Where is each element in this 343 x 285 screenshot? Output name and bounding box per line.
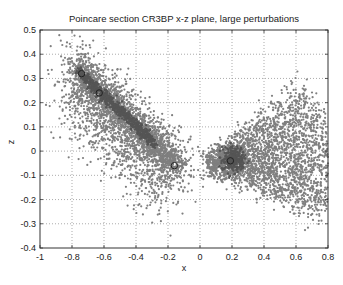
scatter-points (45, 34, 329, 237)
y-tick-label: -0.3 (20, 219, 36, 229)
y-tick-label: 0.1 (23, 122, 36, 132)
x-tick-label: 0.2 (226, 252, 239, 262)
y-axis-label: z (6, 139, 16, 144)
x-axis-label: x (182, 263, 187, 273)
y-tick-label: 0.5 (23, 25, 36, 35)
x-tick-label: 0.4 (258, 252, 271, 262)
x-tick-label: 0 (197, 252, 202, 262)
y-tick-label: -0.4 (20, 243, 36, 253)
x-tick-label: -0.8 (64, 252, 80, 262)
x-tick-label: -0.6 (96, 252, 112, 262)
y-tick-label: 0.4 (23, 49, 36, 59)
x-tick-label: 0.8 (322, 252, 335, 262)
y-tick-label: -0.2 (20, 195, 36, 205)
chart-title: Poincare section CR3BP x-z plane, large … (69, 13, 299, 24)
chart-figure: Poincare section CR3BP x-z plane, large … (0, 0, 343, 285)
y-tick-label: 0.3 (23, 73, 36, 83)
y-tick-label: 0 (31, 146, 36, 156)
x-tick-label: -0.4 (128, 252, 144, 262)
y-tick-label: 0.2 (23, 98, 36, 108)
y-tick-label: -0.1 (20, 170, 36, 180)
x-tick-label: -0.2 (160, 252, 176, 262)
x-tick-label: -1 (36, 252, 44, 262)
x-tick-label: 0.6 (290, 252, 303, 262)
